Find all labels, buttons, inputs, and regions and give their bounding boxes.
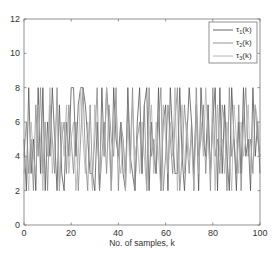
x-tick-label: 20 bbox=[66, 228, 76, 238]
legend-label-tau3: τ3(k) bbox=[236, 51, 252, 61]
y-tick-label: 0 bbox=[15, 220, 20, 230]
y-tick-labels: 0 2 4 6 8 10 12 bbox=[10, 14, 20, 230]
x-axis-label: No. of samples, k bbox=[109, 238, 175, 248]
line-chart: 0 2 4 6 8 10 12 0 20 40 60 80 100 No. of… bbox=[0, 0, 277, 256]
series-line-tau2 bbox=[24, 88, 260, 191]
x-tick-label: 60 bbox=[161, 228, 171, 238]
x-tick-label: 40 bbox=[113, 228, 123, 238]
x-tick-label: 80 bbox=[208, 228, 218, 238]
y-tick-label: 10 bbox=[10, 48, 20, 58]
y-tick-label: 12 bbox=[10, 14, 20, 24]
x-tick-labels: 0 20 40 60 80 100 bbox=[21, 228, 267, 238]
y-tick-label: 2 bbox=[15, 186, 20, 196]
y-tick-label: 4 bbox=[15, 151, 20, 161]
x-tick-label: 100 bbox=[252, 228, 267, 238]
legend-label-tau2: τ2(k) bbox=[236, 38, 252, 48]
y-tick-label: 6 bbox=[15, 117, 20, 127]
y-tick-label: 8 bbox=[15, 83, 20, 93]
legend: τ1(k) τ2(k) τ3(k) bbox=[209, 22, 257, 63]
legend-label-tau1: τ1(k) bbox=[236, 25, 252, 35]
x-tick-label: 0 bbox=[21, 228, 26, 238]
series-layer bbox=[24, 88, 260, 191]
